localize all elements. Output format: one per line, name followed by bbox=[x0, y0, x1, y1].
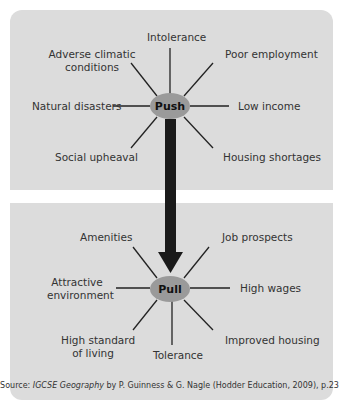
pull-factor-job-prospects: Job prospects bbox=[222, 231, 293, 244]
push-factor-poor-employment: Poor employment bbox=[225, 48, 318, 61]
push-factor-low-income: Low income bbox=[238, 100, 300, 113]
push-spoke-top-right bbox=[184, 63, 213, 96]
source-title: IGCSE Geography bbox=[33, 381, 104, 390]
pull-factor-high-standard-of-living: High standard of living bbox=[61, 334, 125, 360]
pull-factor-attractive-environment: Attractive environment bbox=[47, 276, 107, 302]
source-prefix: Source: bbox=[0, 381, 33, 390]
label-line: conditions bbox=[47, 61, 137, 74]
push-spoke-bottom-right bbox=[184, 117, 213, 148]
label-line: environment bbox=[47, 289, 107, 302]
push-factor-adverse-climatic: Adverse climatic conditions bbox=[47, 48, 137, 74]
push-spoke-bottom-left bbox=[131, 117, 157, 148]
label-line: High standard bbox=[61, 334, 125, 347]
label-line: of living bbox=[61, 347, 125, 360]
push-factor-social-upheaval: Social upheaval bbox=[55, 151, 138, 164]
push-factor-intolerance: Intolerance bbox=[147, 31, 206, 44]
pull-factor-improved-housing: Improved housing bbox=[225, 334, 320, 347]
push-factor-housing-shortages: Housing shortages bbox=[223, 151, 321, 164]
push-to-pull-arrow bbox=[158, 119, 183, 273]
pull-factor-amenities: Amenities bbox=[80, 231, 132, 244]
pull-node: Pull bbox=[150, 276, 190, 302]
pull-spoke-top-right bbox=[184, 247, 209, 278]
pull-factor-high-wages: High wages bbox=[240, 282, 301, 295]
push-factor-natural-disasters: Natural disasters bbox=[32, 100, 121, 113]
push-node: Push bbox=[150, 93, 190, 119]
source-suffix: by P. Guinness & G. Nagle (Hodder Educat… bbox=[104, 381, 339, 390]
source-caption: Source: IGCSE Geography by P. Guinness &… bbox=[0, 381, 339, 390]
pull-spoke-bottom-left bbox=[133, 300, 157, 330]
pull-spoke-top-left bbox=[133, 247, 157, 278]
pull-spoke-bottom-right bbox=[184, 300, 213, 330]
label-line: Attractive bbox=[47, 276, 107, 289]
pull-factor-tolerance: Tolerance bbox=[153, 349, 203, 362]
label-line: Adverse climatic bbox=[47, 48, 137, 61]
